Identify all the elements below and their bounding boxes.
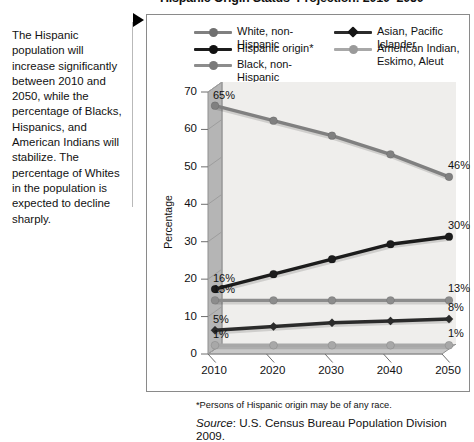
x-axis-tick-label: 2010 (192, 364, 236, 376)
y-axis-tick-label: 60 (171, 122, 197, 134)
data-label-end: 8% (448, 301, 464, 313)
data-label-end: 30% (448, 219, 470, 231)
legend-swatch-icon (194, 24, 232, 40)
data-label-start: 13% (213, 283, 235, 295)
callout-text: The Hispanic population will increase si… (12, 28, 124, 227)
data-label-end: 46% (448, 159, 470, 171)
plot-area: Percentage 01020304050607020102020203020… (146, 82, 470, 392)
legend-swatch-icon (194, 41, 232, 57)
source-text: : U.S. Census Bureau Population Division… (196, 416, 447, 442)
legend-label: Hispanic origin* (237, 41, 313, 55)
legend-label: American Indian, Eskimo, Aleut (377, 41, 460, 68)
x-axis-tick-label: 2040 (368, 364, 412, 376)
data-label-start: 65% (213, 89, 235, 101)
y-axis-tick-label: 30 (171, 235, 197, 247)
y-axis-tick-label: 70 (171, 85, 197, 97)
y-axis-tick-label: 50 (171, 160, 197, 172)
legend-label: Black, non-Hispanic (237, 57, 332, 84)
y-axis-tick-label: 0 (171, 347, 197, 359)
callout-pointer-icon (133, 13, 144, 27)
legend-column-right: Asian, Pacific Islander American Indian,… (334, 24, 466, 57)
legend-label-line2: Eskimo, Aleut (377, 55, 460, 68)
data-label-start: 1% (213, 328, 229, 340)
legend-label-line1: American Indian, (377, 42, 460, 54)
legend-item-asian-pacific-islander[interactable]: Asian, Pacific Islander (334, 24, 466, 41)
x-axis-tick-label: 2020 (251, 364, 295, 376)
x-axis-tick-label: 2050 (426, 364, 470, 376)
data-label-start: 16% (213, 272, 235, 284)
y-axis-tick-label: 40 (171, 197, 197, 209)
callout-box: The Hispanic population will increase si… (0, 22, 133, 207)
legend-item-american-indian[interactable]: American Indian, Eskimo, Aleut (334, 41, 466, 58)
legend-swatch-icon (194, 57, 232, 73)
footnote: *Persons of Hispanic origin may be of an… (196, 400, 392, 410)
legend-item-hispanic-origin[interactable]: Hispanic origin* (194, 41, 332, 58)
y-axis-title: Percentage (162, 182, 174, 262)
y-axis-tick-label: 20 (171, 272, 197, 284)
page-title: Hispanic Origin Status–Projection: 2010–… (160, 0, 424, 5)
chart-legend: White, non-Hispanic Hispanic origin* Bla… (194, 24, 466, 76)
legend-item-black-non-hispanic[interactable]: Black, non-Hispanic (194, 57, 332, 74)
data-label-start: 5% (213, 313, 229, 325)
data-label-end: 1% (448, 327, 464, 339)
source-label: Source (196, 416, 233, 429)
data-label-end: 13% (448, 282, 470, 294)
legend-column-left: White, non-Hispanic Hispanic origin* Bla… (194, 24, 332, 74)
legend-swatch-icon (334, 24, 372, 40)
source-line: Source: U.S. Census Bureau Population Di… (196, 416, 474, 442)
legend-item-white-non-hispanic[interactable]: White, non-Hispanic (194, 24, 332, 41)
x-axis-tick-label: 2030 (309, 364, 353, 376)
legend-swatch-icon (334, 41, 372, 57)
y-axis-tick-label: 10 (171, 310, 197, 322)
